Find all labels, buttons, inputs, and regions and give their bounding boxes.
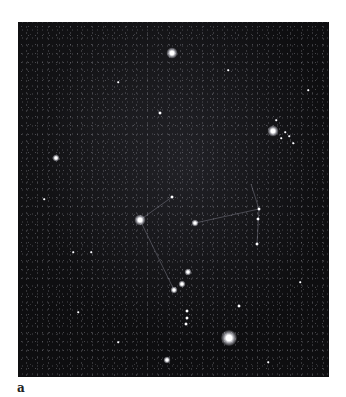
right-arm-star-2	[256, 217, 260, 221]
star-field-photo	[18, 22, 329, 377]
rigel-star	[221, 330, 237, 346]
nebula-star-3	[171, 287, 178, 294]
constellation-line	[195, 209, 259, 223]
cluster-star-3	[280, 137, 283, 140]
constellation-line	[251, 184, 259, 209]
field-star-e	[299, 281, 302, 284]
right-arm-star-1	[257, 207, 261, 211]
cluster-star-5	[275, 119, 278, 122]
cluster-star-1	[284, 131, 287, 134]
constellation-line	[257, 209, 259, 244]
upper-belt-star	[170, 195, 174, 199]
field-star-g	[117, 341, 120, 344]
saiph-star	[164, 357, 171, 364]
constellation-line	[140, 220, 174, 290]
bellatrix-star	[135, 215, 146, 226]
lower-right-star	[237, 304, 241, 308]
left-field-star	[53, 155, 60, 162]
nebula-star-2	[179, 281, 186, 288]
belt-mid-star	[192, 220, 199, 227]
betelgeuse-star	[268, 126, 279, 137]
right-arm-star-3	[255, 242, 259, 246]
cluster-star-2	[288, 135, 291, 138]
field-star-a	[227, 69, 230, 72]
sword-star-2	[185, 316, 189, 320]
left-mid-star	[72, 251, 75, 254]
upper-mid-star	[158, 111, 162, 115]
sword-star-3	[184, 322, 188, 326]
field-star-d	[77, 311, 80, 314]
cluster-star-4	[292, 142, 295, 145]
field-star-b	[307, 89, 310, 92]
meissa-star	[167, 48, 178, 59]
nebula-star-1	[185, 269, 192, 276]
sword-star-1	[185, 309, 189, 313]
field-star-f	[267, 361, 270, 364]
field-star-c	[117, 81, 120, 84]
left-low-star	[43, 198, 46, 201]
panel-label: a	[17, 381, 25, 395]
constellation-lines	[18, 22, 329, 377]
center-star	[90, 251, 93, 254]
